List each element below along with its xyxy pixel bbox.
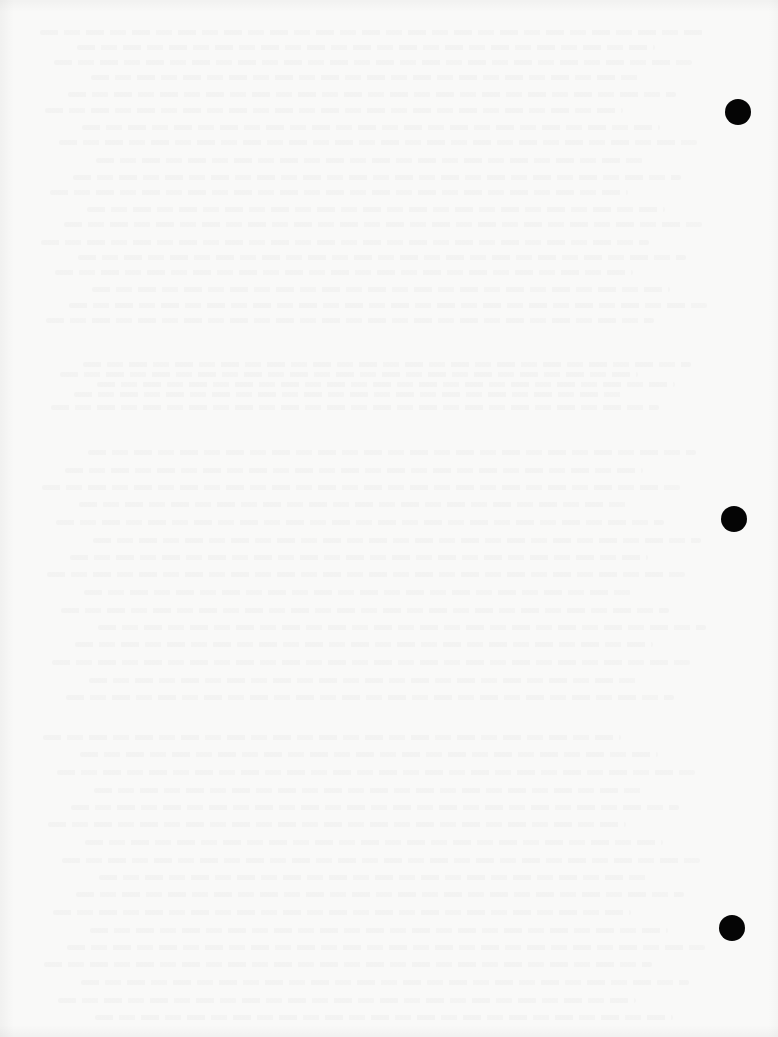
bleed-line: [48, 822, 626, 827]
bleed-line: [42, 485, 680, 490]
bleed-line: [82, 125, 660, 130]
bleed-line: [55, 270, 633, 275]
bleed-line: [65, 468, 643, 473]
bleed-line: [94, 788, 642, 793]
bleed-line: [53, 910, 631, 915]
bleed-line: [54, 60, 692, 65]
bleed-line: [62, 858, 700, 863]
bleed-line: [71, 805, 679, 810]
bleed-line: [97, 382, 675, 387]
bleed-line: [95, 1015, 673, 1020]
bleed-line: [61, 608, 669, 613]
bleed-line: [45, 108, 623, 113]
bleed-line: [40, 30, 708, 35]
bleed-line: [83, 362, 691, 367]
bleed-line: [88, 450, 696, 455]
bleed-line: [76, 892, 684, 897]
bleed-line: [69, 303, 707, 308]
bleed-line: [90, 928, 668, 933]
bleed-line: [52, 660, 690, 665]
bleed-line: [60, 372, 638, 377]
bleed-line: [98, 625, 706, 630]
bleed-line: [91, 75, 639, 80]
bleed-line: [46, 318, 654, 323]
bleed-line: [93, 538, 701, 543]
bleed-line: [51, 405, 659, 410]
bleed-line: [80, 752, 658, 757]
bleed-line: [74, 392, 622, 397]
bleed-line: [84, 590, 632, 595]
bleed-line: [96, 158, 644, 163]
bleed-line: [56, 520, 664, 525]
bleed-line: [75, 642, 653, 647]
hole-punch-top: [725, 99, 751, 125]
bleed-line: [67, 945, 705, 950]
bleed-line: [73, 175, 681, 180]
bleed-line: [44, 962, 652, 967]
bleed-line: [79, 502, 627, 507]
bleed-line: [89, 678, 637, 683]
hole-punch-middle: [721, 506, 747, 532]
bleed-line: [99, 875, 647, 880]
bleed-line: [43, 735, 621, 740]
bleed-line: [59, 140, 697, 145]
bleed-line: [92, 287, 670, 292]
bleed-line: [66, 695, 674, 700]
bleed-line: [57, 770, 695, 775]
bleed-line: [81, 980, 689, 985]
bleed-line: [64, 222, 702, 227]
bleed-line: [87, 207, 665, 212]
bleed-line: [68, 92, 676, 97]
bleed-line: [70, 555, 648, 560]
bleed-line: [50, 190, 628, 195]
scanned-page: [0, 0, 778, 1037]
bleed-line: [85, 840, 663, 845]
bleed-line: [77, 45, 655, 50]
bleed-line: [78, 255, 686, 260]
bleed-line: [58, 998, 636, 1003]
bleed-line: [41, 240, 649, 245]
bleed-line: [47, 572, 685, 577]
hole-punch-bottom: [719, 915, 745, 941]
